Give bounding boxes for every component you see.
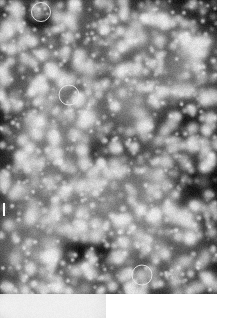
comparison-field-inset [0, 294, 106, 318]
star-field-image [0, 0, 217, 294]
annotation-circle-target-1 [32, 3, 51, 22]
annotation-circle-target-3 [132, 265, 152, 285]
astronomical-figure [0, 0, 225, 318]
left-edge-tick-marker [3, 203, 5, 216]
annotation-circle-target-2 [59, 85, 79, 105]
annotation-overlay [0, 0, 217, 294]
comparison-field-canvas [0, 294, 106, 318]
